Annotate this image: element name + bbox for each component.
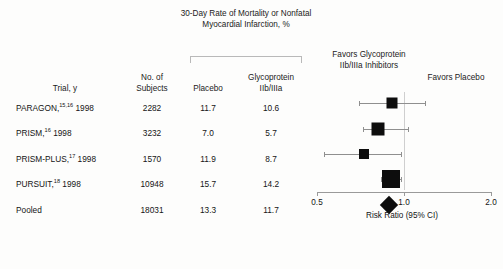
x-axis-tick <box>491 192 492 196</box>
confidence-interval-cap <box>324 152 325 157</box>
table-row-label: PARAGON,15,16 1998 <box>16 103 136 113</box>
study-estimate-box <box>382 170 400 188</box>
table-row-label: PRISM-PLUS,17 1998 <box>16 154 136 164</box>
cell-placebo: 15.7 <box>184 179 232 189</box>
confidence-interval-cap <box>359 101 360 106</box>
study-estimate-box <box>359 149 369 159</box>
study-estimate-box <box>371 123 384 136</box>
cell-glycoprotein: 10.6 <box>238 103 304 113</box>
table-row-label: PURSUIT,18 1998 <box>16 179 136 189</box>
forest-plot-panel: 0.51.02.0 Risk Ratio (95% CI) <box>306 92 498 232</box>
column-header-trial: Trial, y <box>18 84 112 95</box>
x-axis-tick <box>404 192 405 196</box>
cell-glycoprotein: 11.7 <box>238 205 304 215</box>
cell-subjects: 1570 <box>126 154 178 164</box>
cell-glycoprotein: 5.7 <box>238 128 304 138</box>
cell-placebo: 13.3 <box>184 205 232 215</box>
confidence-interval-cap <box>425 101 426 106</box>
table-row-label: Pooled <box>16 205 136 215</box>
citation-superscript: 16 <box>45 127 51 133</box>
table-row-label: PRISM,16 1998 <box>16 128 136 138</box>
column-header-subjects: No. of Subjects <box>126 73 178 94</box>
confidence-interval-line <box>363 129 408 130</box>
forest-plot-figure: 30-Day Rate of Mortality or Nonfatal Myo… <box>0 0 503 269</box>
spanner-header: 30-Day Rate of Mortality or Nonfatal Myo… <box>178 8 314 30</box>
cell-glycoprotein: 8.7 <box>238 154 304 164</box>
cell-subjects: 10948 <box>126 179 178 189</box>
cell-placebo: 11.7 <box>184 103 232 113</box>
x-axis-title: Risk Ratio (95% CI) <box>306 211 498 220</box>
favors-treatment-label: Favors Glycoprotein IIb/IIIa Inhibitors <box>330 50 408 71</box>
cell-placebo: 11.9 <box>184 154 232 164</box>
citation-superscript: 17 <box>69 153 75 159</box>
x-axis-tick <box>317 192 318 196</box>
confidence-interval-cap <box>408 127 409 132</box>
reference-line <box>404 92 405 190</box>
citation-superscript: 15,16 <box>59 102 73 108</box>
x-axis-tick-label: 2.0 <box>476 198 503 207</box>
column-header-glycoprotein: Glycoprotein IIb/IIIa <box>238 73 304 94</box>
cell-subjects: 18031 <box>126 205 178 215</box>
study-estimate-box <box>387 98 398 109</box>
cell-placebo: 7.0 <box>184 128 232 138</box>
x-axis-tick-label: 0.5 <box>302 198 332 207</box>
citation-superscript: 18 <box>54 178 60 184</box>
spanner-bracket <box>190 56 302 63</box>
cell-glycoprotein: 14.2 <box>238 179 304 189</box>
x-axis-tick-label: 1.0 <box>389 198 419 207</box>
favors-placebo-label: Favors Placebo <box>426 73 486 84</box>
cell-subjects: 2282 <box>126 103 178 113</box>
confidence-interval-cap <box>401 152 402 157</box>
confidence-interval-cap <box>363 127 364 132</box>
column-header-placebo: Placebo <box>184 84 232 95</box>
cell-subjects: 3232 <box>126 128 178 138</box>
confidence-interval-cap <box>401 177 402 182</box>
